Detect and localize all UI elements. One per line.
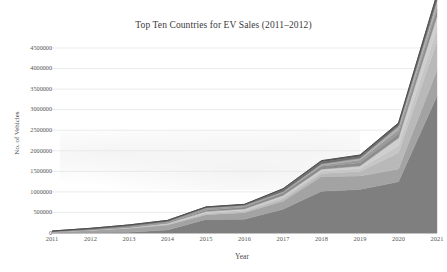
x-axis-tick-label: 2013 — [109, 236, 149, 242]
y-axis-tick-label: 1000000 — [8, 189, 52, 195]
stacked-area-plot — [0, 0, 447, 272]
x-axis-tick-label: 2014 — [148, 236, 188, 242]
y-axis-tick-labels: 0500000100000015000002000000250000030000… — [0, 0, 52, 272]
x-axis-tick-label: 2011 — [32, 236, 72, 242]
y-axis-tick-label: 4500000 — [8, 45, 52, 51]
y-axis-tick-label: 500000 — [8, 209, 52, 215]
x-axis-tick-label: 2017 — [263, 236, 303, 242]
x-axis-tick-label: 2021 — [417, 236, 447, 242]
y-axis-tick-label: 3500000 — [8, 86, 52, 92]
chart-figure: Top Ten Countries for EV Sales (2011–201… — [0, 0, 447, 272]
x-axis-tick-label: 2015 — [186, 236, 226, 242]
series-areas — [52, 0, 437, 233]
x-axis-title: Year — [47, 252, 437, 261]
x-axis-tick-label: 2019 — [340, 236, 380, 242]
y-axis-tick-label: 1500000 — [8, 168, 52, 174]
x-axis-tick-label: 2016 — [225, 236, 265, 242]
y-axis-tick-label: 2500000 — [8, 127, 52, 133]
y-axis-tick-label: 2000000 — [8, 148, 52, 154]
y-axis-tick-label: 4000000 — [8, 65, 52, 71]
x-axis-tick-label: 2012 — [71, 236, 111, 242]
y-axis-tick-label: 3000000 — [8, 106, 52, 112]
x-axis-tick-label: 2018 — [302, 236, 342, 242]
x-axis-tick-label: 2020 — [379, 236, 419, 242]
